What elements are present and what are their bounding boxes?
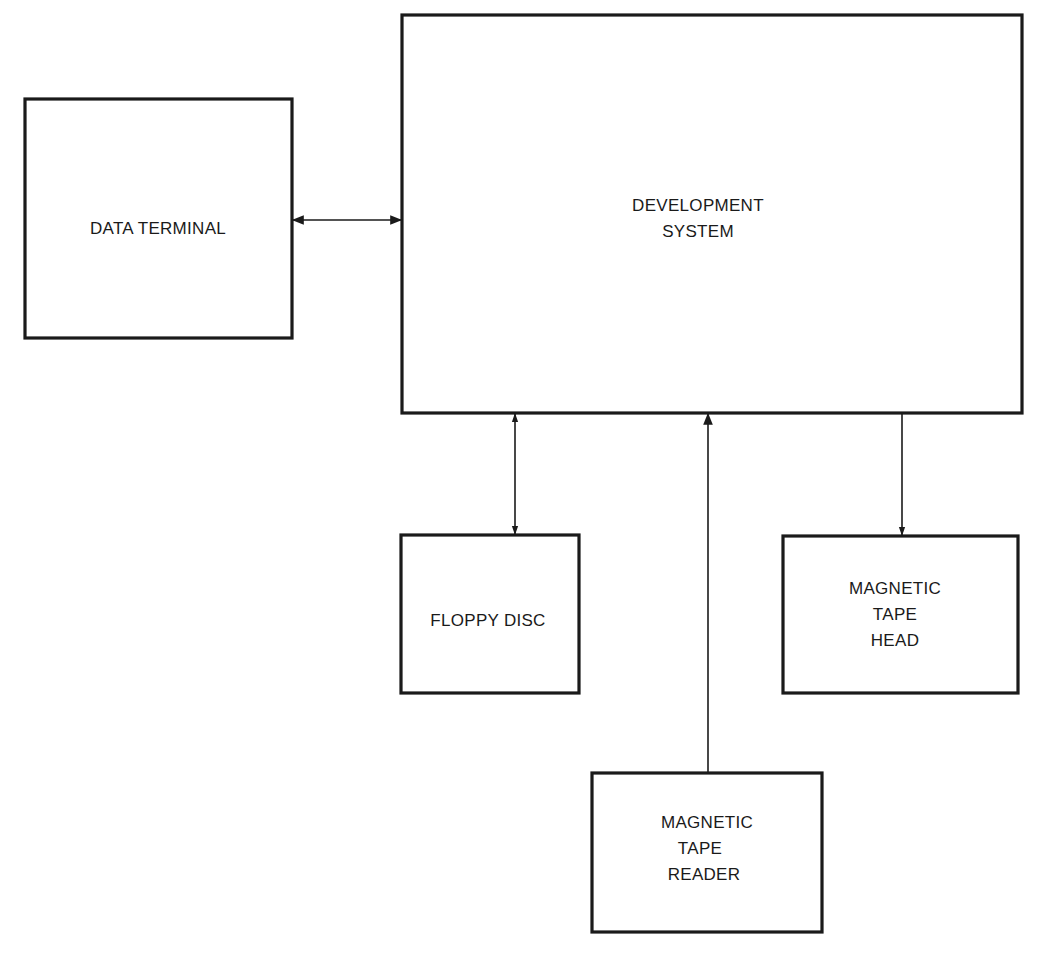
- data-terminal-label: DATA TERMINAL: [90, 219, 226, 238]
- magnetic-tape-head-label-line-1: MAGNETIC: [849, 579, 941, 598]
- node-development-system: DEVELOPMENT SYSTEM: [402, 15, 1022, 413]
- node-data-terminal: DATA TERMINAL: [25, 99, 292, 338]
- node-floppy-disc: FLOPPY DISC: [401, 535, 579, 693]
- development-system-label-line-2: SYSTEM: [662, 222, 734, 241]
- magnetic-tape-head-label-line-2: TAPE: [873, 605, 917, 624]
- magnetic-tape-reader-label-line-3: READER: [668, 865, 741, 884]
- node-magnetic-tape-head: MAGNETIC TAPE HEAD: [783, 536, 1018, 693]
- node-magnetic-tape-reader: MAGNETIC TAPE READER: [592, 773, 822, 932]
- development-system-label-line-1: DEVELOPMENT: [632, 196, 764, 215]
- block-diagram: DATA TERMINAL DEVELOPMENT SYSTEM FLOPPY …: [0, 0, 1042, 954]
- magnetic-tape-head-label-line-3: HEAD: [871, 631, 919, 650]
- magnetic-tape-reader-label-line-1: MAGNETIC: [661, 813, 753, 832]
- floppy-disc-label: FLOPPY DISC: [430, 611, 545, 630]
- magnetic-tape-reader-label-line-2: TAPE: [678, 839, 722, 858]
